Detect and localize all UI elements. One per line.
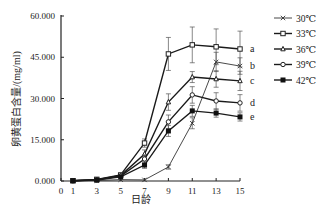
legend-label: 33℃ — [296, 29, 317, 39]
annotation-label: c — [250, 75, 255, 86]
series-3 — [71, 87, 243, 183]
annotation-label: a — [250, 43, 255, 54]
legend-item: 33℃ — [274, 29, 317, 39]
marker-triangle-icon — [281, 46, 285, 50]
annotation-label: d — [250, 97, 255, 108]
x-tick-label: 11 — [188, 186, 197, 196]
marker-circle-icon — [214, 99, 218, 103]
marker-square-icon — [281, 31, 285, 35]
marker-filled-square-icon — [94, 178, 99, 183]
marker-filled-square-icon — [281, 78, 286, 83]
marker-square-icon — [238, 47, 242, 51]
series-0 — [71, 52, 243, 183]
legend-label: 42℃ — [296, 76, 317, 86]
series-1 — [71, 27, 243, 183]
legend-label: 36℃ — [296, 45, 317, 55]
series-4 — [70, 105, 242, 183]
x-tick-label: 3 — [95, 186, 100, 196]
legend: 30℃33℃36℃39℃42℃ — [274, 14, 317, 86]
series-line — [73, 111, 240, 181]
marker-filled-square-icon — [166, 128, 171, 133]
marker-triangle-icon — [214, 76, 218, 80]
marker-circle-icon — [190, 93, 194, 97]
marker-square-icon — [190, 43, 194, 47]
y-tick-label: 30.000 — [30, 94, 55, 104]
line-chart: 0.00015.00030.00045.00060.00001357911131… — [0, 0, 322, 215]
y-tick-label: 60.000 — [30, 11, 55, 21]
marker-filled-square-icon — [190, 108, 195, 113]
y-axis-label: 卵黄蛋白含量/(mg/ml) — [10, 51, 23, 147]
marker-filled-square-icon — [70, 178, 75, 183]
y-tick-label: 45.000 — [30, 52, 55, 62]
x-tick-label: 15 — [236, 186, 246, 196]
legend-item: 30℃ — [274, 14, 317, 24]
x-tick-label: 1 — [71, 186, 76, 196]
x-axis-label: 日龄 — [131, 193, 151, 205]
legend-label: 39℃ — [296, 60, 317, 70]
legend-item: 39℃ — [274, 60, 317, 70]
marker-circle-icon — [238, 101, 242, 105]
marker-triangle-icon — [190, 74, 194, 78]
marker-triangle-icon — [238, 78, 242, 82]
x-tick-label: 9 — [166, 186, 171, 196]
legend-label: 30℃ — [296, 14, 317, 24]
annotation-label: e — [250, 111, 255, 122]
y-tick-label: 15.000 — [30, 135, 55, 145]
marker-filled-square-icon — [238, 114, 243, 119]
legend-item: 36℃ — [274, 45, 317, 55]
x-tick-label: 0 — [59, 186, 64, 196]
marker-square-icon — [166, 52, 170, 56]
marker-circle-icon — [142, 157, 146, 161]
series-2 — [71, 71, 243, 183]
marker-filled-square-icon — [118, 174, 123, 179]
marker-circle-icon — [166, 120, 170, 124]
series-line — [73, 95, 240, 181]
marker-square-icon — [142, 141, 146, 145]
x-tick-label: 13 — [212, 186, 222, 196]
marker-filled-square-icon — [214, 111, 219, 116]
marker-square-icon — [214, 45, 218, 49]
marker-circle-icon — [281, 62, 285, 66]
x-tick-label: 5 — [118, 186, 123, 196]
marker-filled-square-icon — [142, 163, 147, 168]
legend-item: 42℃ — [274, 76, 317, 86]
series-group: abcde — [70, 27, 255, 183]
y-tick-label: 0.000 — [35, 176, 56, 186]
annotation-label: b — [250, 60, 255, 71]
